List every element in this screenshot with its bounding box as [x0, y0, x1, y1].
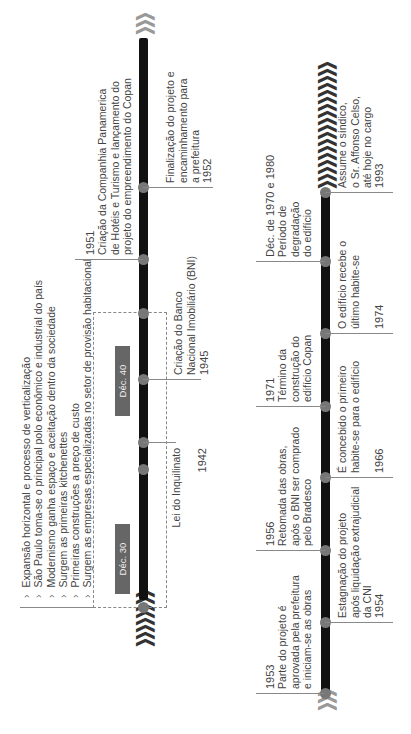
event-1966-text: É concebido o primeiro habite-se para o … — [336, 361, 361, 473]
event-1956-year: 1956 — [264, 522, 277, 546]
event-1974-text: O edifício recebe o último habite-se — [336, 241, 361, 329]
event-1993-year: 1993 — [373, 164, 386, 188]
event-connector — [143, 442, 175, 443]
event-connector — [256, 261, 325, 262]
bullet-item: Primeiras construções a preço de custo — [69, 259, 81, 598]
bullet-item: Expansão horizontal e processo de vertic… — [20, 259, 32, 598]
event-1974-year: 1974 — [373, 305, 386, 329]
bullets-connector — [20, 607, 94, 608]
event-dec70-80-year: Déc. de 1970 e 1980 — [264, 155, 277, 257]
event-1952-year: 1952 — [201, 159, 214, 183]
spacer — [175, 442, 176, 443]
event-connector — [143, 187, 213, 188]
event-connector — [143, 379, 201, 380]
event-1945-year: 1945 — [198, 351, 211, 375]
bullet-item: Surgem as primeiras kitchenettes — [57, 259, 69, 598]
timeline-dot — [138, 602, 149, 613]
event-1956-text: Retomada das obras, após o BNI ser compr… — [276, 427, 314, 546]
event-connector — [325, 622, 393, 623]
event-1951-text: Criação da Companhia Panamerica de Hotéi… — [96, 78, 134, 255]
period-label-dec40: Déc. 40 — [115, 346, 130, 416]
event-1966-year: 1966 — [373, 449, 386, 473]
event-1954-text: Estagnação do projeto após liquidação ex… — [336, 487, 374, 618]
event-connector — [325, 192, 393, 193]
event-1953-year: 1953 — [264, 665, 277, 689]
timeline-figure: ❯❯❯❯❯❯❯❯ ❯❯❯ Déc. 30 Déc. 40 Expansão ho… — [0, 0, 411, 734]
event-1953-text: Parte do projeto é aprovada pela prefeit… — [276, 575, 314, 689]
event-connector — [256, 406, 325, 407]
event-connector — [256, 550, 325, 551]
event-1971-year: 1971 — [264, 378, 277, 402]
event-1942-year: 1942 — [196, 448, 209, 568]
timeline-dot — [138, 464, 149, 475]
timeline-dot — [138, 308, 149, 319]
period-label-dec30: Déc. 30 — [115, 524, 130, 594]
decades-dashed-box — [93, 312, 167, 608]
event-1952-text: Finalização do projeto e encaminhamento … — [164, 72, 202, 184]
bullet-item: Surgem as empresas especializadas no set… — [81, 259, 93, 598]
context-bullet-list: Expansão horizontal e processo de vertic… — [20, 259, 94, 598]
event-connector — [75, 259, 143, 260]
end-chevrons-icon: ❯❯❯ — [137, 15, 150, 36]
event-connector — [325, 333, 393, 334]
end-chevrons-icon: ❯❯❯❯❯❯❯❯❯❯❯❯❯❯❯❯❯❯ — [319, 64, 332, 190]
event-1971-text: Término da construção do edifício Copan — [276, 335, 314, 402]
event-dec70-80-text: Período de degradação do edifício — [276, 202, 314, 257]
event-1945-text: Criação do Banco Nacional Imobiliário (B… — [172, 256, 197, 375]
bullet-item: Modernismo ganha espaço e aceitação dent… — [45, 259, 57, 598]
event-1993-text: Assume o síndico, o Sr. Affonso Celso, a… — [336, 96, 374, 188]
event-1951-year: 1951 — [84, 231, 97, 255]
event-connector — [256, 693, 325, 694]
event-1942-text: Lei do Inquilinato — [170, 448, 183, 568]
event-connector — [325, 477, 393, 478]
event-1954-year: 1954 — [373, 594, 386, 618]
bullet-item: São Paulo toma-se o principal polo econô… — [32, 259, 44, 598]
